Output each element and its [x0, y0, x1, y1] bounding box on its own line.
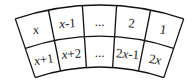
cell-label: x+2: [60, 45, 82, 62]
cell-label: ...: [95, 13, 105, 28]
cell-label: ...: [95, 44, 105, 59]
cell-label: x-1: [57, 14, 76, 30]
curved-table-svg: xx-1...21x+1x+2...2x-12x: [0, 0, 193, 83]
inner-arc: [35, 67, 164, 78]
cell-label: x: [31, 21, 40, 37]
curved-table-diagram: xx-1...21x+1x+2...2x-12x: [0, 0, 193, 83]
cell-label: 2x-1: [115, 45, 139, 62]
cell-label: 2: [128, 15, 136, 30]
cell-label: 2x: [148, 50, 163, 67]
cell-label: 1: [159, 21, 168, 37]
cell-label: x+1: [32, 50, 55, 68]
